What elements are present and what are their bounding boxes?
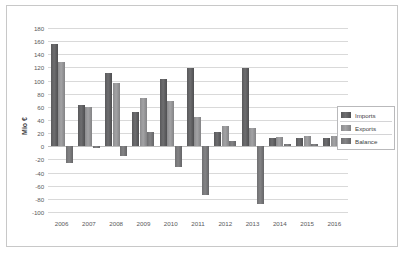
bar-exports-2006[interactable] xyxy=(58,62,65,146)
bar-exports-2015[interactable] xyxy=(304,136,311,147)
bar-exports-2011[interactable] xyxy=(194,117,201,147)
x-axis-tick-label: 2013 xyxy=(246,220,260,227)
bar-group xyxy=(239,28,266,212)
bar-group xyxy=(212,28,239,212)
y-axis-tick-label: 100 xyxy=(34,77,44,84)
bar-balance-2011[interactable] xyxy=(202,146,209,195)
bar-exports-2010[interactable] xyxy=(167,101,174,146)
bar-balance-2015[interactable] xyxy=(311,144,318,146)
bar-imports-2014[interactable] xyxy=(269,138,276,146)
legend-swatch-imports-icon xyxy=(341,112,351,118)
y-axis-tick-label: 60 xyxy=(37,103,44,110)
x-axis-tick-label: 2006 xyxy=(55,220,69,227)
chart-legend: Imports Exports Balance xyxy=(337,106,395,150)
x-axis-tick-label: 2010 xyxy=(164,220,178,227)
bar-exports-2012[interactable] xyxy=(222,126,229,146)
y-axis-tick-label: -60 xyxy=(35,182,44,189)
bar-balance-2012[interactable] xyxy=(229,141,236,146)
bar-group xyxy=(75,28,102,212)
bar-group xyxy=(293,28,320,212)
x-axis-tick-label: 2016 xyxy=(327,220,341,227)
bar-imports-2010[interactable] xyxy=(160,79,167,146)
bar-imports-2015[interactable] xyxy=(296,138,303,147)
x-axis-tick-label: 2014 xyxy=(273,220,287,227)
bar-imports-2007[interactable] xyxy=(78,105,85,146)
y-axis-tick-label: -40 xyxy=(35,169,44,176)
bar-exports-2014[interactable] xyxy=(276,137,283,146)
legend-label-exports: Exports xyxy=(355,125,376,132)
y-axis-tick-label: 0 xyxy=(41,143,44,150)
bar-imports-2006[interactable] xyxy=(51,44,58,146)
bar-exports-2007[interactable] xyxy=(85,107,92,146)
y-axis-tick-label: 80 xyxy=(37,90,44,97)
bar-group xyxy=(130,28,157,212)
y-axis-title: Mio € xyxy=(21,117,28,135)
y-axis-tick-label: 140 xyxy=(34,51,44,58)
bar-imports-2011[interactable] xyxy=(187,68,194,146)
bar-imports-2008[interactable] xyxy=(105,73,112,147)
y-axis-tick-label: -80 xyxy=(35,195,44,202)
x-axis-tick-label: 2012 xyxy=(218,220,232,227)
bar-exports-2013[interactable] xyxy=(249,128,256,146)
y-axis-tick-label: 20 xyxy=(37,130,44,137)
legend-item-imports[interactable]: Imports xyxy=(340,109,392,121)
y-axis-tick-label: -20 xyxy=(35,156,44,163)
legend-item-balance[interactable]: Balance xyxy=(340,134,392,147)
legend-swatch-balance-icon xyxy=(341,138,351,144)
y-axis-tick-label: 40 xyxy=(37,117,44,124)
bar-balance-2009[interactable] xyxy=(147,132,154,146)
bar-group xyxy=(266,28,293,212)
bar-balance-2006[interactable] xyxy=(66,146,73,163)
bar-imports-2013[interactable] xyxy=(242,68,249,146)
bar-balance-2013[interactable] xyxy=(257,146,264,204)
bar-balance-2010[interactable] xyxy=(175,146,182,167)
legend-label-imports: Imports xyxy=(355,112,376,119)
legend-swatch-exports-icon xyxy=(341,125,351,131)
bar-balance-2008[interactable] xyxy=(120,146,127,156)
chart-frame: Mio € 180160140120100806040200-20-40-60-… xyxy=(6,5,398,247)
bar-balance-2007[interactable] xyxy=(93,146,100,148)
plot-area: 180160140120100806040200-20-40-60-80-100… xyxy=(48,28,348,212)
x-axis-tick-label: 2015 xyxy=(300,220,314,227)
bar-balance-2014[interactable] xyxy=(284,144,291,146)
bar-group xyxy=(103,28,130,212)
bar-exports-2009[interactable] xyxy=(140,98,147,147)
bar-imports-2012[interactable] xyxy=(214,132,221,146)
gridline: -100 xyxy=(48,212,348,213)
legend-label-balance: Balance xyxy=(355,138,377,145)
y-axis-tick-label: -100 xyxy=(32,209,44,216)
bar-exports-2008[interactable] xyxy=(113,83,120,146)
x-axis-tick-label: 2009 xyxy=(137,220,151,227)
bar-imports-2009[interactable] xyxy=(132,112,139,146)
y-axis-tick-label: 120 xyxy=(34,64,44,71)
bar-group xyxy=(184,28,211,212)
x-axis-tick-label: 2011 xyxy=(191,220,204,227)
x-axis-tick-label: 2008 xyxy=(109,220,123,227)
bar-group xyxy=(157,28,184,212)
legend-item-exports[interactable]: Exports xyxy=(340,121,392,134)
x-axis-tick-label: 2007 xyxy=(82,220,96,227)
y-axis-tick-label: 160 xyxy=(34,38,44,45)
bar-imports-2016[interactable] xyxy=(323,138,330,146)
bar-group xyxy=(48,28,75,212)
y-axis-tick-label: 180 xyxy=(34,25,44,32)
